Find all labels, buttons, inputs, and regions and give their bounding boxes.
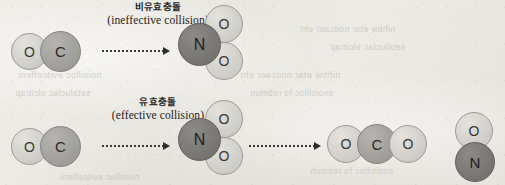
atom-label-carbon: C <box>372 137 383 152</box>
effective-collision-label-ko: 유효충돌 <box>88 97 228 108</box>
atom-label-carbon: C <box>55 44 66 59</box>
atom-nitrogen: N <box>455 142 495 182</box>
arrow-head <box>163 47 170 55</box>
atom-nitrogen: N <box>178 118 221 161</box>
atom-label-oxygen: O <box>219 54 230 68</box>
atom-carbon: C <box>40 126 81 167</box>
atom-carbon: C <box>40 31 81 72</box>
atom-label-oxygen: O <box>219 17 230 31</box>
atom-label-carbon: C <box>55 139 66 154</box>
atom-label-oxygen: O <box>469 124 480 138</box>
collision-arrow <box>102 47 170 55</box>
arrow-shaft <box>102 145 164 147</box>
arrow-head <box>314 142 321 150</box>
atom-label-nitrogen: N <box>470 155 481 170</box>
atom-label-oxygen: O <box>403 137 414 151</box>
arrow-shaft <box>102 50 164 52</box>
ineffective-collision-label-ko: 비유효충돌 <box>88 2 228 13</box>
atom-label-oxygen: O <box>341 137 352 151</box>
atom-oxygen: O <box>389 125 427 163</box>
atom-label-oxygen: O <box>24 140 35 154</box>
arrow-head <box>163 142 170 150</box>
atom-nitrogen: N <box>178 23 221 66</box>
atom-label-oxygen: O <box>24 45 35 59</box>
product-arrow <box>249 142 321 150</box>
atom-label-nitrogen: N <box>194 132 206 148</box>
arrow-shaft <box>249 145 315 147</box>
atom-label-oxygen: O <box>219 112 230 126</box>
collision-arrow <box>102 142 170 150</box>
atom-label-oxygen: O <box>219 149 230 163</box>
atom-label-nitrogen: N <box>194 37 206 53</box>
